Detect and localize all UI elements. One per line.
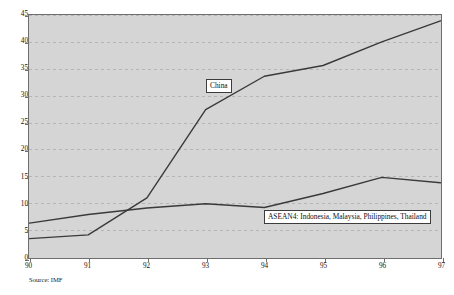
x-tick-96: 96	[371, 262, 395, 270]
y-tick-35: 35	[6, 65, 28, 72]
y-tick-45: 45	[6, 11, 28, 18]
x-tick-92: 92	[135, 262, 159, 270]
y-tick-0: 0	[6, 255, 28, 262]
series-label-asean4: ASEAN4: Indonesia, Malaysia, Philippines…	[264, 210, 431, 224]
x-tick-93: 93	[194, 262, 218, 270]
y-tickmark-30	[25, 97, 29, 98]
y-tick-5: 5	[6, 228, 28, 235]
x-tick-95: 95	[312, 262, 336, 270]
series-label-china: China	[206, 79, 232, 93]
y-tick-30: 30	[6, 92, 28, 99]
y-tickmark-45	[25, 16, 29, 17]
x-tick-94: 94	[253, 262, 277, 270]
y-tickmark-35	[25, 70, 29, 71]
y-tickmark-25	[25, 124, 29, 125]
y-tick-15: 15	[6, 174, 28, 181]
y-tickmark-20	[25, 151, 29, 152]
x-tick-91: 91	[76, 262, 100, 270]
y-tickmark-5	[25, 232, 29, 233]
chart-figure: 051015202530354045 9091929394959697 Chin…	[0, 0, 454, 295]
x-axis-tick-labels: 9091929394959697	[28, 262, 442, 274]
y-tickmark-0	[25, 260, 29, 261]
y-tick-40: 40	[6, 38, 28, 45]
x-tick-90: 90	[17, 262, 41, 270]
y-tickmark-40	[25, 43, 29, 44]
source-note: Source: IMF	[29, 276, 63, 284]
y-tick-25: 25	[6, 119, 28, 126]
y-tick-10: 10	[6, 201, 28, 208]
y-tickmark-10	[25, 205, 29, 206]
y-tickmark-15	[25, 178, 29, 179]
x-tick-97: 97	[430, 262, 454, 270]
y-tick-20: 20	[6, 146, 28, 153]
